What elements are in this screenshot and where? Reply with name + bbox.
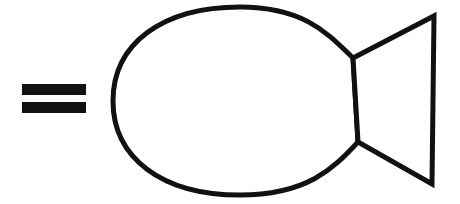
figure-svg: Equals sign followed by fish outline [0,0,460,204]
figure-canvas: Equals sign followed by fish outline [0,0,460,204]
equals-sign-bar-top [22,84,86,95]
equals-sign-bar-bottom [22,102,86,113]
fish-body [113,7,358,195]
